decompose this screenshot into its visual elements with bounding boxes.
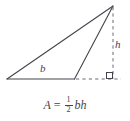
fraction-numerator: 1 bbox=[66, 96, 72, 104]
base-label: b bbox=[40, 63, 46, 74]
height-label: h bbox=[115, 39, 121, 50]
fraction-denominator: 2 bbox=[66, 106, 72, 114]
formula-area-symbol: A bbox=[43, 98, 50, 113]
area-formula: A = 1 2 bh bbox=[0, 96, 130, 115]
formula-one-half-fraction: 1 2 bbox=[65, 96, 73, 115]
triangle-area-figure: b h A = 1 2 bh bbox=[0, 0, 130, 121]
right-angle-marker-icon bbox=[107, 73, 113, 79]
formula-equals-sign: = bbox=[54, 98, 61, 113]
formula-base-height-term: bh bbox=[75, 98, 87, 113]
triangle-edge-left-hypotenuse bbox=[7, 6, 113, 79]
triangle-edge-right bbox=[75, 6, 114, 79]
